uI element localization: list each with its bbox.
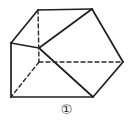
figure-container: ① bbox=[0, 0, 133, 120]
edge-lower-right-slant bbox=[93, 62, 123, 97]
figure-caption: ① bbox=[0, 99, 133, 120]
edge-left-horizontal-short bbox=[11, 43, 39, 48]
edge-hidden-vertical bbox=[38, 10, 39, 62]
edge-hidden-diagonal bbox=[11, 62, 39, 97]
edge-top-edge bbox=[38, 9, 92, 10]
caption-circled-number: ① bbox=[61, 103, 73, 116]
edge-upper-left-slant bbox=[11, 10, 38, 43]
edge-face-diagonal-lower bbox=[39, 48, 93, 97]
edge-face-diagonal-upper bbox=[39, 9, 92, 48]
solid-edges-group bbox=[11, 9, 123, 97]
edge-upper-right-slant bbox=[92, 9, 123, 62]
